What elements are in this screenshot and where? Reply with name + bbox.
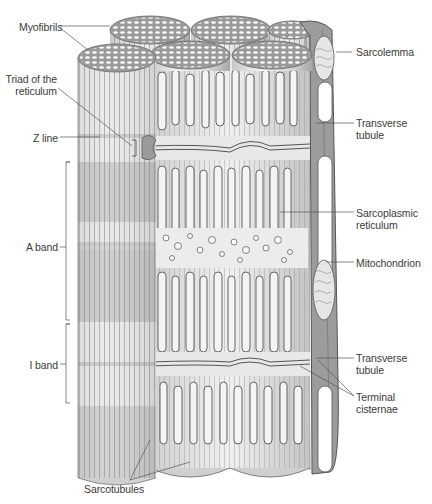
label-myofibrils: Myofibrils (19, 21, 62, 33)
label-triad-line2: reticulum (0, 85, 57, 97)
label-transverse-tubule-top-line1: Transverse (356, 117, 407, 129)
label-sarcoplasmic-line1: Sarcoplasmic (356, 207, 418, 219)
muscle-fiber-diagram: Myofibrils Triad of the reticulum Z line… (0, 0, 432, 504)
mitochondrion-icon (313, 260, 335, 320)
label-mitochondrion: Mitochondrion (356, 257, 421, 269)
label-sarcoplasmic-line2: reticulum (356, 219, 398, 231)
label-sarcolemma: Sarcolemma (356, 46, 414, 58)
label-a-band: A band (0, 241, 58, 253)
label-z-line: Z line (0, 132, 58, 144)
myofibril-left-banded (78, 44, 156, 485)
label-transverse-tubule-bottom-line1: Transverse (356, 352, 407, 364)
diagram-illustration (0, 0, 432, 504)
label-terminal-line1: Terminal (356, 391, 395, 403)
sarcoplasmic-reticulum-body (150, 68, 310, 477)
label-i-band: I band (0, 359, 58, 371)
label-transverse-tubule-bottom-line2: tubule (356, 364, 384, 376)
label-triad-line1: Triad of the (0, 73, 57, 85)
label-terminal-line2: cisternae (356, 403, 398, 415)
label-transverse-tubule-top-line2: tubule (356, 129, 384, 141)
label-sarcotubules: Sarcotubules (84, 483, 144, 495)
